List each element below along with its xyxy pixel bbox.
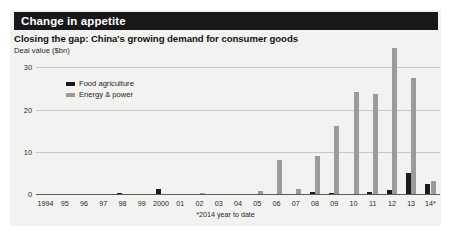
x-tick-label: 95: [61, 199, 69, 208]
bar-energy: [411, 78, 416, 195]
bar-group: 96: [74, 60, 93, 195]
bar-group: 01: [171, 60, 190, 195]
y-tick-label-0: 0: [28, 190, 32, 199]
chart-footnote: *2014 year to date: [0, 210, 451, 219]
bar-group: 98: [113, 60, 132, 195]
x-tick-label: 02: [196, 199, 204, 208]
x-tick-label: 99: [138, 199, 146, 208]
bar-group: 95: [55, 60, 74, 195]
chart-figure: Change in appetite Closing the gap: Chin…: [0, 0, 451, 236]
figure-margin-top: [0, 0, 451, 10]
x-tick-label: 07: [292, 199, 300, 208]
x-tick-label: 14*: [425, 199, 436, 208]
x-tick-label: 1994: [38, 199, 54, 208]
x-tick-label: 01: [176, 199, 184, 208]
bar-group: 04: [228, 60, 247, 195]
y-axis-unit-label: Deal value ($bn): [14, 46, 70, 55]
bar-group: 12: [382, 60, 401, 195]
y-tick-label-10: 10: [24, 147, 32, 156]
bar-group: 13: [402, 60, 421, 195]
bar-group: 2000: [151, 60, 170, 195]
bar-group: 09: [325, 60, 344, 195]
bar-group: 1994: [36, 60, 55, 195]
bar-energy: [315, 156, 320, 195]
header-banner: Change in appetite: [14, 12, 438, 30]
bar-group: 03: [209, 60, 228, 195]
x-tick-label: 09: [330, 199, 338, 208]
x-tick-label: 03: [215, 199, 223, 208]
figure-margin-left: [0, 0, 10, 236]
y-tick-label-30: 30: [24, 63, 32, 72]
x-axis-line: [36, 194, 440, 196]
chart-title: Closing the gap: China's growing demand …: [14, 33, 298, 44]
bar-energy: [277, 160, 282, 195]
x-tick-label: 2000: [153, 199, 169, 208]
figure-margin-right: [441, 0, 451, 236]
bar-group: 08: [305, 60, 324, 195]
bar-group: 05: [248, 60, 267, 195]
x-tick-label: 11: [369, 199, 376, 208]
bar-group: 07: [286, 60, 305, 195]
bar-group: 99: [132, 60, 151, 195]
bar-group: 14*: [421, 60, 440, 195]
x-tick-label: 05: [253, 199, 261, 208]
x-tick-label: 06: [272, 199, 280, 208]
x-tick-label: 04: [234, 199, 242, 208]
x-tick-label: 12: [388, 199, 396, 208]
bar-group: 02: [190, 60, 209, 195]
x-tick-label: 96: [80, 199, 88, 208]
banner-title: Change in appetite: [21, 14, 126, 28]
x-tick-label: 08: [311, 199, 319, 208]
x-tick-label: 10: [349, 199, 357, 208]
bar-group: 06: [267, 60, 286, 195]
bar-group: 10: [344, 60, 363, 195]
x-tick-label: 97: [99, 199, 107, 208]
x-tick-label: 98: [119, 199, 127, 208]
bar-energy: [354, 92, 359, 195]
x-tick-label: 13: [407, 199, 415, 208]
plot-area: 0102030 19949596979899200001020304050607…: [36, 60, 440, 195]
bar-energy: [334, 126, 339, 195]
bar-energy: [373, 94, 378, 195]
figure-margin-bottom: [0, 226, 451, 236]
bar-group: 11: [363, 60, 382, 195]
bar-group: 97: [94, 60, 113, 195]
y-tick-label-20: 20: [24, 105, 32, 114]
bar-food: [406, 173, 411, 195]
bar-energy: [392, 48, 397, 195]
